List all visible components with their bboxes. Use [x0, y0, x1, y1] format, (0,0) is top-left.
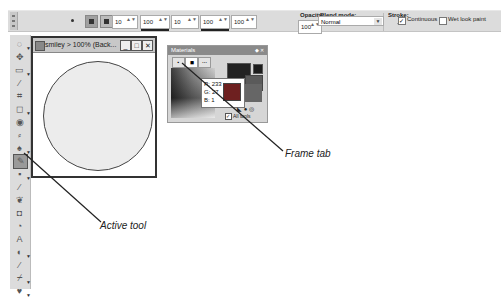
picture-tube-icon[interactable]: ♥▼ [13, 285, 26, 298]
step-spinner[interactable]: 10▲▼ [171, 15, 199, 29]
lighten-darken-icon[interactable]: ◘ [13, 207, 26, 220]
density-spinner[interactable]: 100▲▼ [200, 15, 230, 29]
style-texture-icons[interactable]: ◣ ● ◎ [237, 105, 254, 112]
selection-tool-icon[interactable]: ▭▼ [13, 64, 26, 77]
text-tool-icon[interactable]: A [13, 233, 26, 246]
continuous-checkbox[interactable]: ✓ [398, 17, 406, 25]
airbrush-tool-icon[interactable]: ⁄ [13, 181, 26, 194]
hardness-spinner[interactable]: 100▲▼ [140, 15, 170, 29]
dropper-tool-icon[interactable]: ⁄ [13, 77, 26, 90]
image-window: smiley > 100% (Back... _ □ ✕ [31, 36, 157, 178]
color-replacer-icon[interactable]: ▪▼ [13, 168, 26, 181]
close-button[interactable]: ✕ [142, 40, 153, 51]
move-tool-icon[interactable]: ✥ [13, 51, 26, 64]
document-icon [35, 41, 45, 51]
rainbow-tab[interactable]: ▪ [172, 57, 185, 68]
all-tools-checkbox[interactable]: ✓All tools [225, 113, 251, 120]
round-brush-button[interactable] [85, 15, 98, 28]
image-canvas[interactable] [36, 54, 152, 173]
eraser-tool-icon[interactable]: ◔ [13, 220, 26, 233]
crop-tool-icon[interactable]: ⌗ [13, 90, 26, 103]
swatches-tab[interactable]: ⋯ [198, 57, 211, 68]
size-spinner[interactable]: 10▲▼ [112, 15, 138, 29]
flood-fill-icon[interactable]: ⌿▼ [13, 272, 26, 285]
shape-tool-icon[interactable]: ◐▼ [13, 246, 26, 259]
materials-title: Materials [171, 47, 195, 53]
image-window-title: smiley > 100% (Back... [45, 41, 116, 48]
frame-tab[interactable]: ◼ [185, 57, 198, 68]
materials-titlebar[interactable]: Materials ◆ ✕ [168, 46, 267, 55]
chevron-down-icon: ▼ [374, 18, 382, 25]
rgb-tooltip: R: 233 G: 27 B: 1 [201, 78, 245, 108]
continuous-label: Continuous [407, 16, 437, 22]
circle-shape [43, 61, 153, 171]
makeover-tool-icon[interactable]: ⸗ [13, 129, 26, 142]
pan-tool-icon[interactable]: ◌▼ [13, 38, 26, 51]
tools-toolbar: ◌▼ ✥ ▭▼ ⁄ ⌗ ◻▼ ◉ ⸗ ♠▼ ✎ ▪▼ ⁄ ❦ ◘ ◔ A ◐▼ … [10, 35, 31, 289]
color-preview-swatch [223, 83, 241, 101]
cropped-caption [118, 0, 158, 4]
brush-shape-icon[interactable] [71, 19, 74, 22]
wet-look-label: Wet look paint [448, 16, 486, 22]
thickness-spinner[interactable]: 100▲▼ [231, 15, 257, 29]
palette-controls-icon[interactable]: ◆ ✕ [255, 46, 264, 55]
materials-palette: Materials ◆ ✕ ▪ ◼ ⋯ R: 233 G: 27 B: 1 ◣ … [167, 45, 268, 123]
toolbar-grip[interactable] [10, 12, 18, 30]
small-foreground-swatch[interactable] [253, 64, 263, 74]
red-eye-tool-icon[interactable]: ◉ [13, 116, 26, 129]
blend-mode-select[interactable]: Normal ▼ [318, 16, 384, 26]
frame-tab-callout: Frame tab [285, 148, 331, 159]
wet-look-checkbox[interactable] [439, 17, 447, 25]
maximize-button[interactable]: □ [131, 40, 142, 51]
paint-brush-tool-icon[interactable]: ✎ [13, 154, 28, 169]
pick-tool-icon[interactable]: ◻▼ [13, 103, 26, 116]
pen-tool-icon[interactable]: ⁄ [13, 259, 26, 272]
active-tool-callout: Active tool [100, 220, 146, 231]
minimize-button[interactable]: _ [120, 40, 131, 51]
warp-brush-icon[interactable]: ❦ [13, 194, 26, 207]
